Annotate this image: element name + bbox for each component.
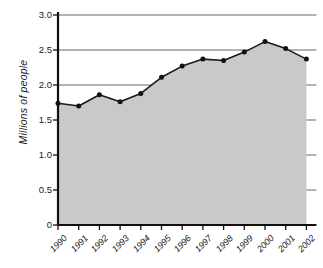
chart-container: Millions of people 00.51.01.52.02.53.0 1… [0,0,323,268]
x-axis-tick-labels: 1990199119921993199419951996199719981999… [0,0,323,268]
